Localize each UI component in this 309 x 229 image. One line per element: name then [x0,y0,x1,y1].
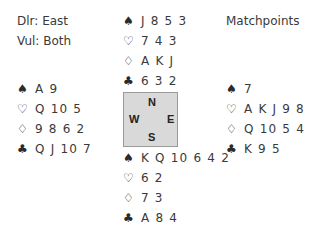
spade-icon: ♠ [226,79,244,99]
west-hand: ♠A 9 ♡Q 10 5 ♢9 8 6 2 ♣Q J 10 7 [17,79,92,159]
diamond-icon: ♢ [123,51,141,71]
club-icon: ♣ [123,71,141,91]
diamond-icon: ♢ [17,119,35,139]
diamond-icon: ♢ [123,188,141,208]
south-clubs: ♣A 8 4 [123,208,230,228]
compass-box: N W E S [123,92,178,147]
north-clubs: ♣6 3 2 [123,71,187,91]
east-diamonds: ♢Q 10 5 4 [226,119,305,139]
spade-icon: ♠ [123,11,141,31]
west-clubs: ♣Q J 10 7 [17,139,92,159]
north-diamonds: ♢A K J [123,51,187,71]
south-hand: ♠K Q 10 6 4 2 ♡6 2 ♢7 3 ♣A 8 4 [123,148,230,228]
compass-south: S [148,131,155,143]
south-spades: ♠K Q 10 6 4 2 [123,148,230,168]
west-diamonds: ♢9 8 6 2 [17,119,92,139]
compass-east: E [167,113,174,125]
east-spades: ♠7 [226,79,305,99]
south-diamonds: ♢7 3 [123,188,230,208]
heart-icon: ♡ [123,31,141,51]
club-icon: ♣ [123,208,141,228]
compass-west: W [129,113,139,125]
west-hearts: ♡Q 10 5 [17,99,92,119]
north-hearts: ♡7 4 3 [123,31,187,51]
spade-icon: ♠ [123,148,141,168]
south-hearts: ♡6 2 [123,168,230,188]
heart-icon: ♡ [226,99,244,119]
north-hand: ♠J 8 5 3 ♡7 4 3 ♢A K J ♣6 3 2 [123,11,187,91]
east-hearts: ♡A K J 9 8 [226,99,305,119]
west-spades: ♠A 9 [17,79,92,99]
north-spades: ♠J 8 5 3 [123,11,187,31]
heart-icon: ♡ [17,99,35,119]
deal-info: Dlr: East Vul: Both [17,11,71,51]
heart-icon: ♡ [123,168,141,188]
compass-north: N [148,96,156,108]
east-hand: ♠7 ♡A K J 9 8 ♢Q 10 5 4 ♣K 9 5 [226,79,305,159]
vulnerability-label: Vul: Both [17,31,71,51]
club-icon: ♣ [17,139,35,159]
dealer-label: Dlr: East [17,11,71,31]
east-clubs: ♣K 9 5 [226,139,305,159]
scoring-label: Matchpoints [226,11,299,31]
spade-icon: ♠ [17,79,35,99]
diamond-icon: ♢ [226,119,244,139]
